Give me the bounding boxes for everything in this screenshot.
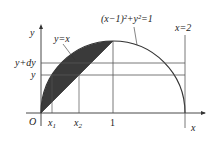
tick-one-label: 1	[110, 117, 115, 128]
y-plus-dy-label: y+dy	[14, 57, 36, 68]
x1-label: x1	[47, 117, 56, 130]
origin-label: O	[29, 116, 36, 127]
x-axis-label: x	[190, 122, 196, 133]
x-axis-arrow-icon	[201, 111, 206, 115]
x2-label: x2	[73, 117, 82, 130]
line-label-y-eq-x: y=x	[53, 33, 70, 44]
diagram-canvas: y x O y=x (x−1)²+y²=1 x=2 y+dy y x1 x2 1	[0, 0, 216, 153]
y-axis-arrow-icon	[39, 24, 43, 29]
circle-equation-label: (x−1)²+y²=1	[101, 13, 153, 25]
y-axis-label: y	[29, 27, 35, 38]
leader-circle	[134, 27, 137, 45]
y-level-label: y	[30, 69, 36, 80]
vertical-line-label: x=2	[174, 22, 191, 33]
